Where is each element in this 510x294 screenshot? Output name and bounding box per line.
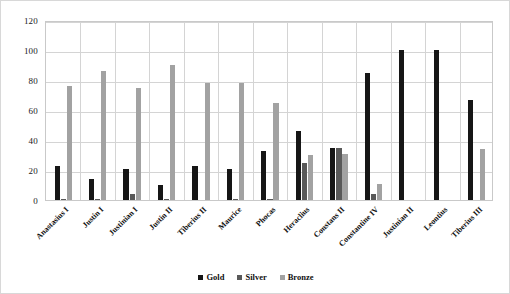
bar-silver (95, 199, 100, 201)
bar-group (218, 22, 252, 200)
bar-group (253, 22, 287, 200)
legend-label: Silver (245, 272, 266, 282)
bar-bronze (480, 149, 485, 200)
bar-gold (123, 169, 128, 201)
bar-silver (302, 163, 307, 201)
y-tick-label: 20 (29, 166, 38, 176)
bar-silver (61, 199, 66, 201)
bar-silver (336, 148, 341, 201)
bar-bronze (308, 155, 313, 200)
bar-bronze (239, 83, 244, 200)
bar-chart-figure: 020406080100120 Anastasius IJustin IJust… (0, 0, 510, 294)
bar-group (184, 22, 218, 200)
bar-group (115, 22, 149, 200)
bar-bronze (136, 88, 141, 201)
y-tick-label: 60 (29, 106, 38, 116)
bar-group (356, 22, 390, 200)
y-tick-label: 40 (29, 136, 38, 146)
bar-bronze (273, 103, 278, 201)
legend-swatch-icon (280, 275, 285, 280)
bar-silver (371, 194, 376, 200)
bar-group (425, 22, 459, 200)
bar-gold (55, 166, 60, 201)
bar-gold (296, 131, 301, 200)
bar-group (80, 22, 114, 200)
bar-group (460, 22, 494, 200)
legend-label: Gold (206, 272, 224, 282)
bar-bronze (170, 65, 175, 200)
bar-group (46, 22, 80, 200)
bar-silver (130, 194, 135, 200)
x-axis: Anastasius IJustin IJustinian IJustin II… (1, 201, 510, 263)
bar-silver (164, 199, 169, 200)
legend-item-silver: Silver (237, 272, 266, 282)
chart-legend: GoldSilverBronze (1, 269, 510, 285)
bar-gold (330, 148, 335, 201)
bar-group (149, 22, 183, 200)
bar-silver (267, 199, 272, 201)
y-tick-label: 100 (24, 46, 38, 56)
bar-bronze (101, 71, 106, 200)
legend-swatch-icon (198, 275, 203, 280)
legend-swatch-icon (237, 275, 242, 280)
bar-bronze (67, 86, 72, 200)
legend-item-gold: Gold (198, 272, 224, 282)
bar-bronze (205, 83, 210, 200)
bar-gold (468, 100, 473, 201)
bar-group (287, 22, 321, 200)
legend-item-bronze: Bronze (280, 272, 314, 282)
bars-layer (46, 22, 492, 200)
bar-silver (233, 199, 238, 201)
plot-area (45, 21, 493, 201)
y-tick-label: 120 (24, 16, 38, 26)
bar-gold (192, 166, 197, 201)
bar-bronze (342, 154, 347, 201)
bar-group (322, 22, 356, 200)
legend-label: Bronze (288, 272, 314, 282)
y-tick-label: 80 (29, 76, 38, 86)
